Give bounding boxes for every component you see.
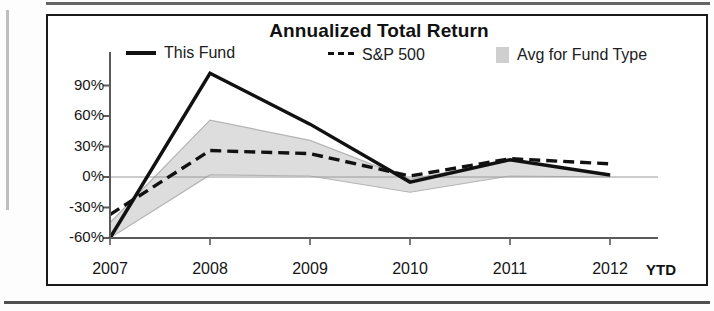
y-axis-tick-label: 0% xyxy=(50,167,104,184)
chart-svg xyxy=(48,16,710,288)
y-axis-tick-label: 60% xyxy=(50,106,104,123)
x-axis-tick-label: 2012 xyxy=(580,260,640,278)
x-axis-tick-label: 2010 xyxy=(380,260,440,278)
screenshot-root: Annualized Total Return This Fund S&P 50… xyxy=(0,0,714,311)
y-axis-tick-label: -60% xyxy=(50,228,104,245)
series-avg-for-fund-type-band xyxy=(110,120,610,238)
x-axis-tick-label: 2007 xyxy=(80,260,140,278)
x-axis-ytd-label: YTD xyxy=(646,261,676,278)
chart-panel: Annualized Total Return This Fund S&P 50… xyxy=(46,14,708,286)
y-axis-tick-label: 90% xyxy=(50,76,104,93)
x-axis-tick-label: 2008 xyxy=(180,260,240,278)
x-axis-tick-label: 2009 xyxy=(280,260,340,278)
plot-area xyxy=(48,16,710,288)
y-axis-tick-label: 30% xyxy=(50,137,104,154)
y-axis-tick-label: -30% xyxy=(50,198,104,215)
scan-edge-left xyxy=(6,10,9,210)
scan-rule-bottom xyxy=(4,301,710,304)
x-axis-tick-label: 2011 xyxy=(480,260,540,278)
scan-rule-top xyxy=(46,2,710,5)
x-axis-labels: 200720082009201020112012YTD xyxy=(48,254,710,284)
y-axis-labels: 90%60%30%0%-30%-60% xyxy=(48,16,104,288)
